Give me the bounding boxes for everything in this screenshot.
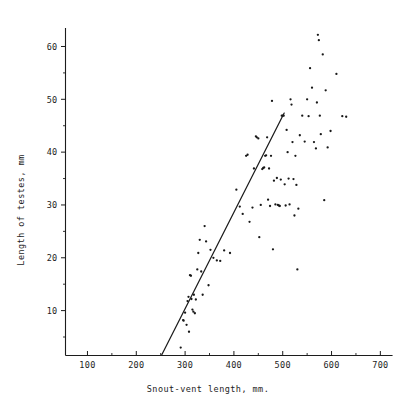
data-point bbox=[322, 53, 324, 55]
x-tick-label: 600 bbox=[323, 360, 339, 370]
data-point bbox=[246, 154, 248, 156]
data-point bbox=[285, 129, 287, 131]
data-point bbox=[280, 178, 282, 180]
data-point bbox=[313, 141, 315, 143]
data-point bbox=[203, 225, 205, 227]
data-point bbox=[229, 252, 231, 254]
data-point bbox=[194, 312, 196, 314]
data-point bbox=[295, 184, 297, 186]
data-point bbox=[276, 177, 278, 179]
data-point bbox=[251, 206, 253, 208]
data-point bbox=[286, 151, 288, 153]
data-point bbox=[248, 221, 250, 223]
y-tick-label: 40 bbox=[47, 147, 58, 157]
data-point bbox=[270, 155, 272, 157]
data-point bbox=[316, 101, 318, 103]
data-point bbox=[318, 39, 320, 41]
x-tick-label: 700 bbox=[372, 360, 388, 370]
plot-canvas: 100200300400500600700 102030405060 Snout… bbox=[0, 0, 416, 413]
data-point bbox=[309, 67, 311, 69]
data-point bbox=[188, 331, 190, 333]
data-point bbox=[185, 324, 187, 326]
data-point bbox=[299, 134, 301, 136]
data-point bbox=[284, 183, 286, 185]
x-axis-title: Snout-vent length, mm. bbox=[147, 384, 269, 394]
data-point bbox=[207, 284, 209, 286]
data-point bbox=[272, 248, 274, 250]
data-point bbox=[335, 73, 337, 75]
data-point bbox=[180, 346, 182, 348]
data-point bbox=[267, 199, 269, 201]
x-tick-label: 200 bbox=[128, 360, 144, 370]
data-point bbox=[315, 147, 317, 149]
x-axis-ticks: 100200300400500600700 bbox=[79, 351, 388, 370]
data-points-group bbox=[180, 34, 348, 349]
data-point bbox=[297, 208, 299, 210]
data-point bbox=[325, 89, 327, 91]
x-tick-label: 400 bbox=[226, 360, 242, 370]
x-tick-label: 500 bbox=[275, 360, 291, 370]
data-point bbox=[205, 240, 207, 242]
data-point bbox=[209, 249, 211, 251]
data-point bbox=[266, 136, 268, 138]
data-point bbox=[212, 257, 214, 259]
data-point bbox=[311, 87, 313, 89]
data-point bbox=[200, 270, 202, 272]
data-point bbox=[239, 205, 241, 207]
x-tick-label: 300 bbox=[177, 360, 193, 370]
data-point bbox=[319, 115, 321, 117]
data-point bbox=[202, 294, 204, 296]
data-point bbox=[190, 275, 192, 277]
scatter-plot-figure: 100200300400500600700 102030405060 Snout… bbox=[0, 0, 416, 413]
data-point bbox=[182, 319, 184, 321]
data-point bbox=[279, 205, 281, 207]
data-point bbox=[320, 133, 322, 135]
data-point bbox=[184, 312, 186, 314]
data-point bbox=[341, 115, 343, 117]
data-point bbox=[223, 249, 225, 251]
data-point bbox=[273, 180, 275, 182]
y-tick-label: 20 bbox=[47, 253, 58, 263]
data-point bbox=[257, 137, 259, 139]
axes-group bbox=[66, 28, 393, 356]
data-point bbox=[285, 204, 287, 206]
data-point bbox=[326, 146, 328, 148]
data-point bbox=[288, 203, 290, 205]
data-point bbox=[271, 100, 273, 102]
data-point bbox=[196, 268, 198, 270]
y-axis-ticks: 102030405060 bbox=[47, 42, 66, 337]
data-point bbox=[306, 98, 308, 100]
data-point bbox=[294, 155, 296, 157]
data-point bbox=[304, 140, 306, 142]
data-point bbox=[293, 214, 295, 216]
y-tick-label: 50 bbox=[47, 95, 58, 105]
y-tick-label: 10 bbox=[47, 306, 58, 316]
data-point bbox=[307, 115, 309, 117]
data-point bbox=[216, 259, 218, 261]
data-point bbox=[265, 154, 267, 156]
data-point bbox=[268, 167, 270, 169]
data-point bbox=[235, 188, 237, 190]
data-point bbox=[296, 268, 298, 270]
data-point bbox=[219, 260, 221, 262]
x-tick-label: 100 bbox=[79, 360, 95, 370]
data-point bbox=[290, 103, 292, 105]
data-point bbox=[345, 116, 347, 118]
y-axis-title: Length of testes, mm bbox=[16, 154, 26, 265]
data-point bbox=[260, 204, 262, 206]
data-point bbox=[253, 167, 255, 169]
y-tick-label: 30 bbox=[47, 200, 58, 210]
data-point bbox=[269, 205, 271, 207]
data-point bbox=[301, 115, 303, 117]
data-point bbox=[291, 141, 293, 143]
regression-line bbox=[162, 113, 285, 355]
data-point bbox=[287, 177, 289, 179]
y-tick-label: 60 bbox=[47, 42, 58, 52]
data-point bbox=[323, 199, 325, 201]
data-point bbox=[329, 130, 331, 132]
data-point bbox=[274, 203, 276, 205]
data-point bbox=[197, 252, 199, 254]
data-point bbox=[242, 213, 244, 215]
data-point bbox=[317, 34, 319, 36]
data-point bbox=[289, 98, 291, 100]
